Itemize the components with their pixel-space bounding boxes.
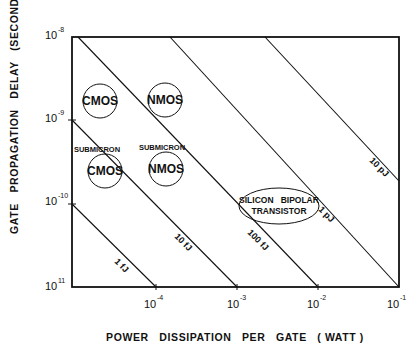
svg-text:10: 10 <box>45 195 57 207</box>
svg-text:-2: -2 <box>320 294 326 301</box>
delay-power-chart: 1 fJ 10 fJ 100 fJ 1 pJ 10 pJ CMOS NMOS S… <box>0 0 409 354</box>
energy-label-10pj: 10 pJ <box>368 155 391 178</box>
energy-label-100fj: 100 fJ <box>246 227 271 252</box>
svg-text:10: 10 <box>227 298 239 310</box>
submicron-cmos-prefix: SUBMICRON <box>74 145 120 154</box>
x-axis-title: POWER DISSIPATION PER GATE ( WATT ) <box>106 331 364 343</box>
svg-text:10: 10 <box>45 29 57 41</box>
y-tick-label: 10 11 <box>45 277 65 292</box>
submicron-nmos-label: NMOS <box>148 162 184 176</box>
svg-text:-4: -4 <box>157 294 163 301</box>
svg-text:10: 10 <box>144 298 156 310</box>
svg-text:-9: -9 <box>58 109 64 116</box>
x-tick-label: 10 -4 <box>144 294 163 310</box>
x-tick-label: 10 -1 <box>387 294 406 310</box>
bipolar-label-line2: TRANSISTOR <box>251 206 306 216</box>
cmos-label: CMOS <box>82 94 118 108</box>
svg-text:10: 10 <box>45 280 57 292</box>
svg-text:10: 10 <box>307 298 319 310</box>
y-tick-label: 10 -8 <box>45 26 64 41</box>
svg-text:-3: -3 <box>240 294 246 301</box>
svg-text:-10: -10 <box>58 192 68 199</box>
nmos-label: NMOS <box>147 93 183 107</box>
y-tick-label: 10 -9 <box>45 109 64 124</box>
bipolar-label-line1: SILICON BIPOLAR <box>239 195 319 205</box>
energy-label-1pj: 1 pJ <box>317 204 337 224</box>
y-axis-title: GATE PROPAGATION DELAY (SECOND) <box>8 0 20 234</box>
x-tick-label: 10 -3 <box>227 294 246 310</box>
svg-text:10: 10 <box>45 112 57 124</box>
energy-line-1fj <box>72 204 156 287</box>
svg-text:-8: -8 <box>58 26 64 33</box>
x-tick-label: 10 -2 <box>307 294 326 310</box>
submicron-cmos-label: CMOS <box>87 164 123 178</box>
svg-text:10: 10 <box>387 298 399 310</box>
plot-frame <box>72 37 399 287</box>
y-tick-label: 10 -10 <box>45 192 68 207</box>
energy-label-10fj: 10 fJ <box>173 231 195 253</box>
submicron-nmos-prefix: SUBMICRON <box>139 143 185 152</box>
svg-text:-1: -1 <box>400 294 406 301</box>
svg-text:11: 11 <box>58 277 65 284</box>
energy-line-1pj <box>170 37 399 287</box>
